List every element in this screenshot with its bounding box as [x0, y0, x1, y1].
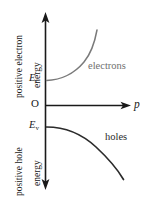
ec-tick-label: Ec: [29, 73, 39, 84]
momentum-axis: [46, 102, 132, 110]
ec-subscript: c: [35, 77, 38, 85]
holes-curve-label: holes: [105, 132, 127, 143]
energy-axis: [42, 12, 50, 190]
electron-band-curve: [47, 30, 98, 81]
ev-tick-label: Ev: [29, 120, 39, 131]
origin-label: O: [31, 98, 39, 109]
ev-subscript: v: [35, 124, 39, 132]
lower-outer-axis-label: positive hole: [15, 147, 25, 196]
momentum-axis-label: p: [134, 99, 140, 111]
upper-outer-axis-label: positive electron: [15, 35, 25, 98]
lower-inner-axis-label: energy: [33, 160, 43, 186]
band-structure-figure: positive electron energy positive hole e…: [0, 0, 149, 201]
electrons-curve-label: electrons: [88, 61, 126, 72]
